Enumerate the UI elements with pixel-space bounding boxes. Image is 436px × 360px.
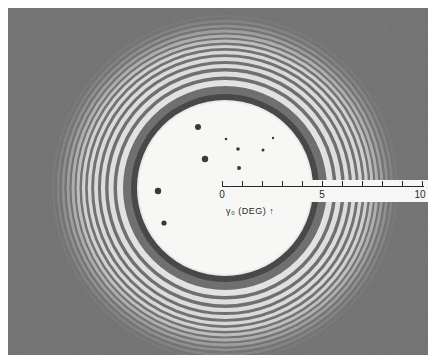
tick-5 [322, 181, 323, 187]
tick-6 [342, 181, 343, 187]
tick-7 [362, 181, 363, 187]
tick-3 [282, 181, 283, 187]
scale-axis-label: γ₀ (DEG) ↑ [226, 206, 274, 216]
tick-8 [382, 181, 383, 187]
tick-1 [242, 181, 243, 187]
tick-4 [302, 181, 303, 187]
scale-label-end: 10 [414, 190, 425, 200]
scale-bar-line [222, 186, 424, 187]
tick-10 [422, 181, 423, 187]
tick-2 [262, 181, 263, 187]
scale-label-mid: 5 [319, 190, 325, 200]
tick-9 [402, 181, 403, 187]
scale-label-start: 0 [219, 190, 225, 200]
tick-0 [222, 181, 223, 187]
